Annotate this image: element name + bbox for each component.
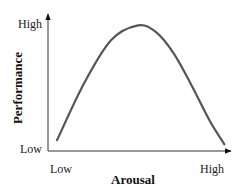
chart-canvas: High Low Low High Arousal Performance bbox=[0, 0, 245, 186]
series-layer bbox=[57, 25, 224, 144]
y-tick-label-low: Low bbox=[20, 142, 42, 156]
chart: High Low Low High Arousal Performance bbox=[0, 0, 245, 186]
x-axis-title: Arousal bbox=[111, 172, 155, 186]
series-line-0 bbox=[57, 25, 224, 144]
x-tick-label-high: High bbox=[200, 162, 224, 176]
y-tick-label-high: High bbox=[18, 17, 42, 31]
x-tick-label-low: Low bbox=[50, 162, 72, 176]
y-axis-title: Performance bbox=[10, 52, 25, 124]
